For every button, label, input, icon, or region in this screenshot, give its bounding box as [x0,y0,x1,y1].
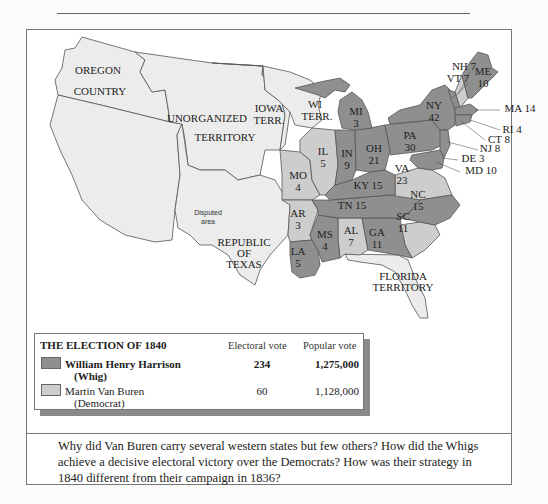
label-ms-1: MS [317,228,333,240]
label-ma: MA 14 [505,102,536,114]
label-unorganized-1: UNORGANIZED [167,112,247,124]
label-ar-1: AR [290,207,306,219]
harrison-popular: 1,275,000 [297,358,359,370]
label-oregon-2: COUNTRY [74,85,127,97]
label-md: MD 10 [465,164,497,176]
label-disputed-1: Disputed [194,209,222,217]
label-ny-2: 42 [429,111,440,123]
legend-header-electoral: Electoral vote [228,340,287,351]
label-al-2: 7 [348,236,354,248]
label-wi-1: WI [308,98,322,110]
label-vt: VT 7 [447,72,470,84]
candidate-van-buren: Martin Van Buren (Democrat) [65,385,144,409]
whig-swatch [41,357,61,369]
label-nc-2: 15 [413,200,425,212]
label-ny-1: NY [426,99,442,111]
label-la-1: LA [291,245,306,257]
label-wi-2: TERR. [302,110,333,122]
label-mo-2: 4 [295,181,301,193]
label-al-1: AL [344,224,359,236]
candidate-party: (Democrat) [65,397,144,409]
label-unorganized-2: TERRITORY [195,131,256,143]
candidate-harrison: William Henry Harrison (Whig) [65,358,181,382]
label-nc-1: NC [410,188,425,200]
label-ga-2: 11 [372,238,383,250]
label-la-2: 5 [295,257,301,269]
election-map: OREGON COUNTRY UNORGANIZED TERRITORY IOW… [0,0,548,330]
harrison-electoral: 234 [247,358,277,370]
label-mi-1: MI [349,105,363,117]
caption-box: Why did Van Buren carry several western … [26,433,512,485]
label-va-1: VA [395,162,410,174]
label-ga-1: GA [369,226,385,238]
label-ky: KY 15 [353,179,383,191]
label-disputed-2: area [201,218,215,225]
label-nh: NH 7 [452,60,477,72]
label-de: DE 3 [462,152,485,164]
label-me-2: 10 [478,77,490,89]
label-in-2: 9 [344,159,350,171]
label-sc-1: SC [396,210,409,222]
label-il-1: IL [318,145,329,157]
label-in-1: IN [341,147,353,159]
label-oregon-1: OREGON [75,64,121,76]
van-buren-electoral: 60 [247,385,277,397]
caption-text: Why did Van Buren carry several western … [58,438,498,486]
legend: THE ELECTION OF 1840 Electoral vote Popu… [34,333,364,410]
label-ms-2: 4 [322,240,328,252]
label-iowa-2: TERR. [254,114,285,126]
state-md-de [410,150,444,170]
democrat-swatch [41,384,61,396]
legend-title: THE ELECTION OF 1840 [40,339,166,351]
label-pa-2: 30 [405,141,417,153]
label-oh-1: OH [366,142,382,154]
state-ct-ri [455,115,472,126]
label-me-1: ME [475,65,492,77]
label-tn: TN 15 [338,199,367,211]
candidate-party: (Whig) [65,370,181,382]
label-mi-2: 3 [353,117,359,129]
label-ar-2: 3 [295,219,301,231]
label-iowa-1: IOWA [255,102,284,114]
label-florida-2: TERRITORY [373,281,434,293]
label-texas-3: TEXAS [226,258,261,270]
candidate-name: Martin Van Buren [65,385,144,397]
label-mo-1: MO [289,169,307,181]
label-sc-2: 11 [398,222,409,234]
label-oh-2: 21 [369,154,380,166]
label-pa-1: PA [403,129,416,141]
legend-header-popular: Popular vote [303,340,356,351]
label-va-2: 23 [397,174,409,186]
van-buren-popular: 1,128,000 [297,385,359,397]
candidate-name: William Henry Harrison [65,358,181,370]
label-il-2: 5 [320,157,326,169]
